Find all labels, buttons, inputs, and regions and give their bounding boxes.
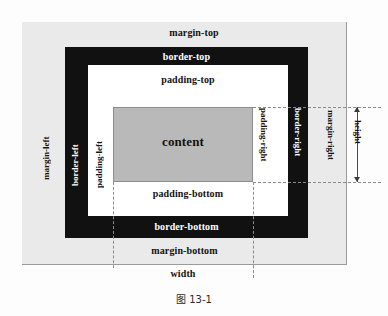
guide-line-content-top [253, 107, 381, 108]
height-arrow-up-icon [354, 107, 360, 112]
box-model-figure: margin-top border-top padding-top conten… [0, 0, 388, 316]
label-padding-left: padding-left [94, 118, 104, 188]
height-arrow-down-icon [354, 177, 360, 182]
label-border-right: border-right [293, 108, 303, 174]
label-margin-left: margin-left [41, 120, 51, 180]
label-padding-right: padding-right [259, 108, 269, 178]
label-width: width [113, 268, 253, 279]
label-margin-top: margin-top [0, 27, 388, 38]
guide-line-content-bottom [253, 182, 381, 183]
label-padding-bottom: padding-bottom [88, 188, 288, 199]
label-border-bottom: border-bottom [65, 221, 308, 232]
figure-caption: 图 13-1 [0, 291, 388, 306]
label-height: height [353, 120, 363, 164]
label-margin-bottom: margin-bottom [22, 245, 347, 256]
label-border-left: border-left [70, 120, 80, 186]
label-border-top: border-top [65, 51, 308, 62]
label-padding-top: padding-top [88, 74, 288, 85]
label-margin-right: margin-right [326, 110, 336, 174]
label-content: content [113, 134, 253, 150]
